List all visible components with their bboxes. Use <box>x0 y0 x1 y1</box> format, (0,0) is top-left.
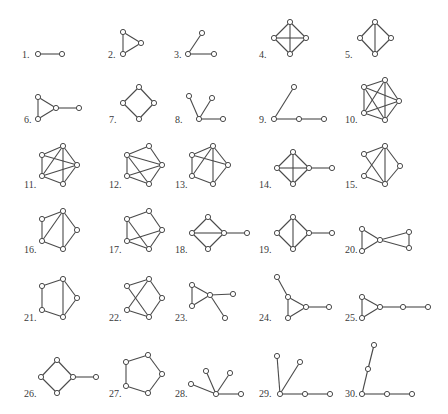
graph-vertex <box>39 173 44 178</box>
graph-vertex <box>274 353 279 358</box>
graph-label: 15. <box>345 179 358 190</box>
graph-edge <box>199 98 212 119</box>
graph-edge <box>274 38 290 54</box>
graph-edge <box>210 295 225 318</box>
graph-25: 25. <box>345 294 431 323</box>
graph-14: 14. <box>259 149 335 190</box>
graph-vertex <box>136 116 141 121</box>
graph-label: 25. <box>345 312 358 323</box>
graph-vertex <box>384 391 389 396</box>
graph-edge <box>360 38 375 54</box>
graph-vertex <box>189 173 194 178</box>
graph-vertex <box>159 295 164 300</box>
graph-vertex <box>365 366 370 371</box>
graph-edge <box>63 165 77 184</box>
graph-edge <box>208 217 224 233</box>
graph-vertex <box>388 35 393 40</box>
graph-20: 20. <box>345 226 412 255</box>
graph-vertex <box>327 391 332 396</box>
graph-edge <box>293 152 309 168</box>
graph-edge <box>126 386 148 393</box>
graph-label: 13. <box>175 179 188 190</box>
graph-edge <box>364 101 399 113</box>
graph-vertex <box>145 390 150 395</box>
graph-edge <box>364 80 385 113</box>
graph-edge <box>148 355 162 374</box>
graph-edge <box>127 211 149 219</box>
graph-vertex <box>371 342 376 347</box>
graph-edge <box>277 152 293 168</box>
graph-4: 4. <box>259 19 309 60</box>
graph-edge <box>127 279 149 286</box>
graph-edge <box>42 279 63 286</box>
graph-vertex <box>296 116 301 121</box>
graph-edge <box>362 240 380 251</box>
graph-vertex <box>274 230 279 235</box>
graph-vertex <box>211 51 216 56</box>
graph-19: 19. <box>259 214 335 255</box>
graph-label: 9. <box>259 114 267 125</box>
graph-vertex <box>39 307 44 312</box>
graph-vertex <box>189 303 194 308</box>
graph-label: 19. <box>259 244 272 255</box>
graph-vertex <box>329 165 334 170</box>
graph-edge <box>42 155 77 165</box>
graph-label: 21. <box>24 312 37 323</box>
graph-26: 26. <box>24 357 99 399</box>
graph-vertex <box>277 391 282 396</box>
graph-edge <box>149 298 162 317</box>
graph-vertex <box>230 291 235 296</box>
graph-edge <box>293 168 309 184</box>
graph-edge <box>149 230 162 249</box>
graph-vertex <box>146 143 151 148</box>
graph-vertex <box>372 51 377 56</box>
graph-vertex <box>406 245 411 250</box>
graph-24: 24. <box>259 274 332 323</box>
graph-5: 5. <box>345 19 394 60</box>
graph-vertex <box>39 238 44 243</box>
graph-edge <box>277 277 288 297</box>
graph-vertex <box>145 352 150 357</box>
graph-vertex <box>146 181 151 186</box>
graph-edge <box>42 165 77 176</box>
graph-vertex <box>297 359 302 364</box>
graph-vertex <box>60 314 65 319</box>
graph-edge <box>277 356 280 394</box>
graph-6: 6. <box>24 94 82 125</box>
graph-label: 17. <box>109 244 122 255</box>
graph-vertex <box>123 383 128 388</box>
graph-vertex <box>359 294 364 299</box>
graph-vertex <box>290 149 295 154</box>
graph-label: 12. <box>109 179 122 190</box>
graph-edge <box>364 87 385 120</box>
graph-vertex <box>189 282 194 287</box>
graph-vertex <box>185 51 190 56</box>
graph-vertex <box>124 307 129 312</box>
graph-vertex <box>271 35 276 40</box>
graph-vertex <box>205 246 210 251</box>
graph-edge <box>63 279 77 298</box>
graph-vertex <box>159 371 164 376</box>
graph-vertex <box>306 230 311 235</box>
graph-vertex <box>287 19 292 24</box>
graph-vertex <box>59 51 64 56</box>
graph-edge <box>216 373 230 394</box>
graph-vertex <box>93 374 98 379</box>
graph-edge <box>213 146 228 165</box>
graph-21: 21. <box>24 276 80 323</box>
graph-edge <box>385 166 400 184</box>
graph-vertex <box>146 314 151 319</box>
graph-edge <box>288 307 306 318</box>
graph-edge <box>368 345 374 369</box>
graph-edge <box>362 369 368 394</box>
graph-vertex <box>382 77 387 82</box>
graph-vertex <box>377 304 382 309</box>
graph-catalog-figure: 1.2.3.4.5.6.7.8.9.10.11.12.13.14.15.16.1… <box>0 0 448 414</box>
graph-vertex <box>406 229 411 234</box>
graph-vertex <box>329 230 334 235</box>
graph-vertex <box>326 304 331 309</box>
graph-vertex <box>196 116 201 121</box>
graph-vertex <box>303 304 308 309</box>
graph-vertex <box>291 84 296 89</box>
graph-label: 20. <box>345 244 358 255</box>
